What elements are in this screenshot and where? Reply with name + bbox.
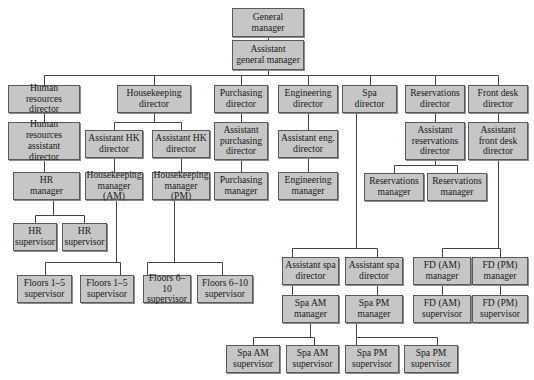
org-node-res-asst: Assistant reservations director xyxy=(405,122,465,160)
org-node-fd-am-sup: FD (AM) supervisor xyxy=(413,295,471,323)
org-node-fl15-1: Floors 1–5 supervisor xyxy=(17,275,72,303)
org-node-hr-mgr: HR manager xyxy=(13,172,80,200)
org-node-fd-dir: Front desk director xyxy=(468,85,528,113)
org-node-spa-pm-sup1: Spa PM supervisor xyxy=(345,345,399,373)
org-node-eng-mgr: Engineering manager xyxy=(278,172,338,200)
org-node-hr-dir: Human resources director xyxy=(8,85,80,113)
org-chart: General managerAssistant general manager… xyxy=(0,0,534,380)
org-node-hk-mgr-pm: Housekeeping manager (PM) xyxy=(152,172,210,200)
org-node-fd-pm-sup: FD (PM) supervisor xyxy=(472,295,528,323)
org-node-agm: Assistant general manager xyxy=(232,40,304,70)
org-node-spa-dir: Spa director xyxy=(342,85,397,113)
org-node-spa-pm-mgr: Spa PM manager xyxy=(345,295,403,323)
org-node-res-mgr2: Reservations manager xyxy=(427,173,487,201)
org-node-res-dir: Reservations director xyxy=(405,85,465,113)
org-node-hr-sup1: HR supervisor xyxy=(13,223,57,251)
org-node-spa-pm-sup2: Spa PM supervisor xyxy=(404,345,458,373)
org-node-fl610-2: Floors 6–10 supervisor xyxy=(197,275,253,303)
org-node-spa-am-sup1: Spa AM supervisor xyxy=(226,345,280,373)
org-node-spa-asst2: Assistant spa director xyxy=(345,257,403,285)
org-node-hr-asst: Human resources assistant director xyxy=(8,122,80,160)
org-node-res-mgr1: Reservations manager xyxy=(364,173,424,201)
org-node-fl610-1: Floors 6–10 supervisor xyxy=(143,275,191,303)
org-node-spa-asst1: Assistant spa director xyxy=(282,257,339,285)
org-node-hk-dir: Housekeeping director xyxy=(117,85,191,113)
org-node-spa-am-mgr: Spa AM manager xyxy=(282,295,339,323)
org-node-pur-mgr: Purchasing manager xyxy=(214,172,268,200)
org-node-spa-am-sup2: Spa AM supervisor xyxy=(286,345,339,373)
org-node-hr-sup2: HR supervisor xyxy=(62,223,107,251)
org-node-hk-mgr-am: Housekeeping manager (AM) xyxy=(85,172,143,200)
org-node-gm: General manager xyxy=(232,8,304,37)
org-node-fd-am-mgr: FD (AM) manager xyxy=(413,257,471,285)
org-node-fl15-2: Floors 1–5 supervisor xyxy=(80,275,134,303)
org-node-hk-asst2: Assistant HK director xyxy=(152,130,210,158)
org-node-eng-dir: Engineering director xyxy=(278,85,338,113)
org-node-fd-asst: Assistant front desk director xyxy=(468,122,528,160)
org-node-fd-pm-mgr: FD (PM) manager xyxy=(472,257,528,285)
org-node-eng-asst: Assistant eng. director xyxy=(278,130,338,158)
org-node-hk-asst1: Assistant HK director xyxy=(85,130,143,158)
org-node-pur-dir: Purchasing director xyxy=(214,85,268,113)
org-node-pur-asst: Assistant purchasing director xyxy=(214,122,268,160)
